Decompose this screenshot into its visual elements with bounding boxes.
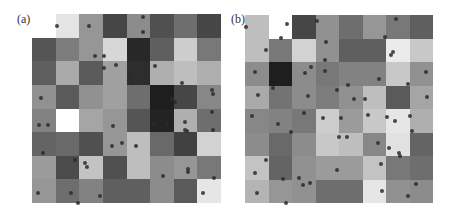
sample-point-marker: [85, 165, 89, 169]
sample-point-marker: [389, 53, 393, 57]
grid-cell: [316, 180, 340, 204]
grid-cell: [339, 156, 363, 180]
grid-cell: [32, 85, 56, 109]
grid-cell: [245, 133, 269, 157]
sample-point-marker: [352, 97, 356, 101]
grid-cell: [103, 14, 127, 38]
sample-point-marker: [306, 94, 310, 98]
sample-point-marker: [46, 123, 50, 127]
grid-cell: [103, 85, 127, 109]
sample-point-marker: [321, 116, 325, 120]
grid-cell: [150, 132, 174, 156]
grid-cell: [386, 39, 410, 63]
sample-point-marker: [153, 64, 157, 68]
sample-point-marker: [406, 82, 410, 86]
sample-point-marker: [102, 66, 106, 70]
grid-cell: [56, 109, 80, 133]
grid-cell: [410, 15, 434, 39]
sample-point-marker: [185, 129, 189, 133]
sample-point-marker: [186, 170, 190, 174]
sample-point-marker: [161, 174, 165, 178]
grid-cell: [56, 61, 80, 85]
grid-cell: [339, 39, 363, 63]
sample-point-marker: [183, 120, 187, 124]
grid-cell: [127, 38, 151, 62]
sample-point-marker: [424, 70, 428, 74]
sample-point-marker: [297, 176, 301, 180]
grid-cell: [79, 179, 103, 203]
sample-point-marker: [414, 182, 418, 186]
grid-cell: [197, 14, 221, 38]
grid-cell: [269, 62, 293, 86]
sample-point-marker: [271, 86, 275, 90]
grid-cell: [56, 132, 80, 156]
grid-cell: [410, 133, 434, 157]
grid-cell: [56, 85, 80, 109]
grid-cell: [79, 156, 103, 180]
sample-point-marker: [173, 100, 177, 104]
grid-cell: [56, 14, 80, 38]
sample-point-marker: [73, 158, 77, 162]
grid-cell: [386, 86, 410, 110]
sample-point-marker: [279, 36, 283, 40]
sample-point-marker: [210, 110, 214, 114]
sample-point-marker: [111, 124, 115, 128]
sample-point-marker: [211, 92, 215, 96]
sample-point-marker: [323, 58, 327, 62]
grid-cell: [363, 62, 387, 86]
grid-cell: [174, 61, 198, 85]
sample-point-marker: [377, 77, 381, 81]
sample-point-marker: [165, 121, 169, 125]
sample-point-marker: [366, 113, 370, 117]
panel-label: (a): [17, 13, 30, 25]
grid-cell: [174, 14, 198, 38]
grid-cell: [197, 156, 221, 180]
grid-cell: [79, 109, 103, 133]
grid-cell: [79, 85, 103, 109]
grid-cell: [56, 179, 80, 203]
sample-point-marker: [398, 154, 402, 158]
grid-cell: [150, 109, 174, 133]
sample-point-marker: [406, 194, 410, 198]
sample-point-marker: [127, 76, 131, 80]
sample-point-marker: [410, 129, 414, 133]
sample-point-marker: [281, 177, 285, 181]
grid-cell: [127, 132, 151, 156]
sample-point-marker: [308, 181, 312, 185]
grid-cell: [339, 109, 363, 133]
grid-cell: [269, 15, 293, 39]
grid-cell: [150, 179, 174, 203]
grid-cell: [316, 133, 340, 157]
sample-point-marker: [102, 54, 106, 58]
sample-point-marker: [244, 25, 248, 29]
sample-point-marker: [264, 158, 268, 162]
sample-point-marker: [394, 17, 398, 21]
sample-point-marker: [345, 135, 349, 139]
sample-point-marker: [315, 19, 319, 23]
grid-cell: [292, 86, 316, 110]
grid-cell: [150, 38, 174, 62]
grid-cell: [79, 61, 103, 85]
sample-point-marker: [120, 141, 124, 145]
sample-point-marker: [129, 81, 133, 85]
grid-cell: [339, 62, 363, 86]
sample-point-marker: [387, 146, 391, 150]
grid-cell: [410, 62, 434, 86]
sample-point-marker: [55, 24, 59, 28]
sample-point-marker: [301, 183, 305, 187]
grid-cell: [245, 15, 269, 39]
grid-cell: [269, 133, 293, 157]
grid-cell: [316, 62, 340, 86]
sample-point-marker: [339, 116, 343, 120]
sample-point-marker: [376, 141, 380, 145]
sample-point-marker: [141, 30, 145, 34]
sample-point-marker: [250, 114, 254, 118]
sample-point-marker: [201, 191, 205, 195]
sample-point-marker: [385, 115, 389, 119]
grayscale-grid-panel: [245, 15, 433, 203]
sample-point-marker: [425, 95, 429, 99]
sample-point-marker: [180, 81, 184, 85]
sample-point-marker: [87, 24, 91, 28]
sample-point-marker: [256, 93, 260, 97]
grid-cell: [410, 156, 434, 180]
